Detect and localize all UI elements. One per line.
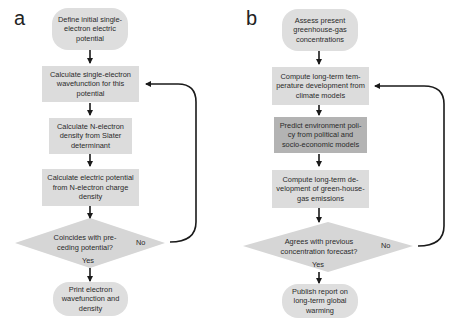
process-step-a3: Calculate electric potential from N-elec… [42,169,139,206]
no-label-b: No [381,241,390,250]
decision-text-a: Coincides with pre-ceding potential? [45,233,125,252]
panel-label-a: a [14,8,25,28]
panel-label-b: b [246,8,257,28]
no-label-a: No [136,238,145,247]
end-node-a: Print electron wavefunction and density [53,282,128,316]
process-step-a1: Calculate single-electron wavefunction f… [42,66,139,102]
process-step-b2-highlighted: Predict environment poli-cy from politic… [274,117,367,153]
start-node-b: Assess present greenhouse-gas concentrat… [282,9,358,51]
end-node-b: Publish report on long-term global warmi… [282,284,358,318]
yes-label-b: Yes [312,260,324,269]
decision-text-b: Agrees with previous concentration forec… [271,237,367,256]
start-node-a: Define initial single-electron electric … [52,8,128,50]
yes-label-a: Yes [82,256,94,265]
process-step-b3: Compute long-term de-velopment of green-… [272,170,369,208]
process-step-a2: Calculate N-electron density from Slater… [49,118,132,154]
process-step-b1: Compute long-term tem-perature developme… [272,67,369,105]
